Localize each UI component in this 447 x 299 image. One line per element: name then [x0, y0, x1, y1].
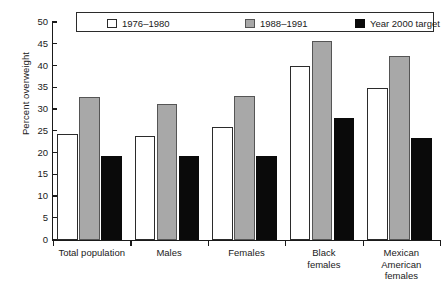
plot-area	[53, 22, 440, 240]
x-axis-separator-tick	[53, 240, 54, 246]
bar	[157, 104, 178, 240]
legend-label: 1988–1991	[260, 18, 308, 29]
bar	[312, 41, 333, 240]
bar	[367, 88, 388, 240]
bar-group	[57, 22, 122, 240]
x-axis-category-label: MexicanAmericanfemales	[348, 247, 447, 282]
y-axis-tick-label: 30	[18, 104, 48, 114]
bar	[101, 156, 122, 240]
bar-group	[290, 22, 355, 240]
y-axis-tick-label: 25	[18, 126, 48, 136]
bar-group	[367, 22, 432, 240]
x-axis-separator-tick	[285, 240, 286, 246]
bar-group	[212, 22, 277, 240]
bar	[234, 96, 255, 240]
y-axis-tick-label: 15	[18, 169, 48, 179]
legend-item: Year 2000 target	[355, 16, 440, 30]
bar-group	[135, 22, 200, 240]
bar	[290, 66, 311, 240]
bar	[411, 138, 432, 240]
legend-swatch-icon	[245, 19, 255, 28]
bar	[334, 118, 355, 240]
y-axis-tick-label: 0	[18, 235, 48, 245]
x-axis-category-label-line: Mexican	[348, 247, 447, 259]
bar-chart: Percent overweight 05101520253035404550 …	[0, 0, 447, 299]
bar	[135, 136, 156, 240]
legend-label: Year 2000 target	[370, 18, 440, 29]
bar	[179, 156, 200, 240]
bar	[256, 156, 277, 240]
legend-swatch-icon	[355, 19, 365, 28]
y-axis-tick-label: 50	[18, 17, 48, 27]
x-axis-separator-tick	[363, 240, 364, 246]
y-axis-tick-label: 35	[18, 82, 48, 92]
y-axis-tick-label: 45	[18, 39, 48, 49]
x-axis-category-label-line: American	[348, 259, 447, 271]
x-axis-separator-tick	[130, 240, 131, 246]
legend-item: 1976–1980	[107, 16, 170, 30]
legend-item: 1988–1991	[245, 16, 308, 30]
legend-label: 1976–1980	[122, 18, 170, 29]
x-axis-separator-tick	[208, 240, 209, 246]
legend: 1976–19801988–1991Year 2000 target	[76, 12, 434, 32]
legend-swatch-icon	[107, 19, 117, 28]
y-axis-tick-label: 5	[18, 213, 48, 223]
bar	[389, 56, 410, 240]
y-axis-tick-label: 40	[18, 61, 48, 71]
x-axis-category-label-line: females	[348, 270, 447, 282]
x-axis-line	[52, 240, 440, 241]
bar	[79, 97, 100, 240]
y-axis-tick-label: 10	[18, 191, 48, 201]
y-axis-tick-label: 20	[18, 148, 48, 158]
bar	[212, 127, 233, 240]
x-axis-separator-tick	[440, 240, 441, 246]
bar	[57, 134, 78, 240]
